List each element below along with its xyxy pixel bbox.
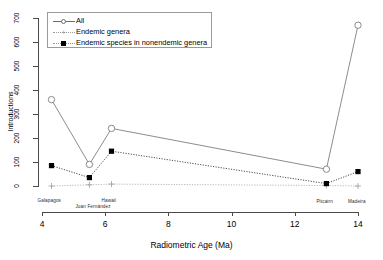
- legend-label-endemic-genera: Endemic genera: [76, 27, 130, 37]
- data-point-0-0: [48, 96, 54, 102]
- data-point-2-1: [87, 175, 92, 180]
- data-point-0-4: [355, 22, 361, 28]
- island-label-madeira: Madeira: [348, 199, 366, 204]
- legend: All + Endemic genera Endemic species in …: [47, 12, 212, 48]
- plot-area: 0100200300400500600700 468101214 Galapag…: [0, 0, 383, 260]
- island-label-galapagos: Galapagos: [37, 198, 61, 203]
- plus-marker-icon: +: [52, 27, 76, 37]
- x-axis-title: Radiometric Age (Ma): [0, 240, 383, 250]
- data-point-0-1: [86, 161, 92, 167]
- data-point-1-0: [49, 183, 55, 189]
- open-circle-marker-icon: [52, 16, 76, 26]
- chart-figure: 0100200300400500600700 468101214 Galapag…: [0, 0, 383, 260]
- island-label-juan-fern-ndez: Juan Fernández: [75, 204, 110, 209]
- data-point-2-4: [355, 169, 360, 174]
- y-axis-title: Introductions: [7, 74, 14, 150]
- data-point-2-3: [324, 181, 329, 186]
- legend-label-all: All: [76, 16, 84, 26]
- data-point-1-1: [86, 182, 92, 188]
- legend-item-all: All: [52, 16, 207, 26]
- island-label-pitcairn: Pitcairn: [316, 199, 333, 204]
- series-line-endemic-genera: [52, 184, 359, 186]
- filled-square-marker-icon: [52, 38, 76, 48]
- legend-item-endemic-species: Endemic species in nonendemic genera: [52, 38, 207, 48]
- legend-label-endemic-species: Endemic species in nonendemic genera: [76, 38, 207, 48]
- data-point-0-2: [108, 125, 114, 131]
- data-point-2-2: [109, 149, 114, 154]
- data-point-2-0: [49, 163, 54, 168]
- legend-item-endemic-genera: + Endemic genera: [52, 27, 207, 37]
- data-point-1-4: [355, 183, 361, 189]
- series-line-endemic-species-in-nonendemic-genera: [52, 151, 359, 183]
- data-point-1-2: [109, 181, 115, 187]
- island-label-hawaii: Hawaii: [102, 198, 117, 203]
- data-point-0-3: [323, 166, 329, 172]
